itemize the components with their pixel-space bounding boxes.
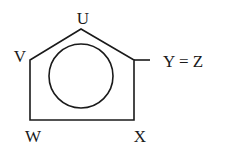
diagram-canvas: U V W X Y = Z xyxy=(0,0,246,152)
label-w: W xyxy=(25,127,42,146)
pentagon-outline xyxy=(30,29,134,120)
label-x: X xyxy=(134,127,146,146)
label-equation: Y = Z xyxy=(163,52,203,71)
label-u: U xyxy=(77,9,89,28)
label-v: V xyxy=(14,47,27,66)
inner-circle xyxy=(49,44,113,108)
